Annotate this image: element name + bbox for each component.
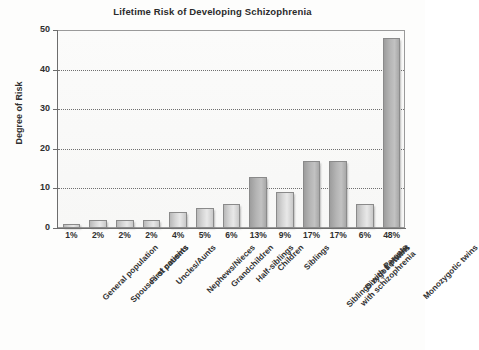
y-tick-mark-40 <box>53 70 57 71</box>
bar <box>196 208 214 228</box>
bar <box>223 204 241 228</box>
x-category-label: General population <box>101 243 160 302</box>
bar <box>249 177 267 228</box>
bar-value-label: 48% <box>376 230 408 240</box>
bar <box>89 220 107 228</box>
bar <box>303 161 321 228</box>
bar <box>169 212 187 228</box>
bar <box>63 224 81 228</box>
y-tick-mark-0 <box>53 228 57 229</box>
bar <box>356 204 374 228</box>
bar <box>116 220 134 228</box>
x-category-label: Monozygotic twins <box>421 243 479 301</box>
y-tick-label-30: 30 <box>2 103 50 113</box>
y-tick-mark-30 <box>53 109 57 110</box>
y-tick-label-0: 0 <box>2 222 50 232</box>
bar <box>383 38 401 228</box>
bar <box>143 220 161 228</box>
bar-series <box>58 30 405 228</box>
y-tick-label-10: 10 <box>2 182 50 192</box>
bar <box>329 161 347 228</box>
y-tick-label-50: 50 <box>2 24 50 34</box>
y-tick-mark-50 <box>53 30 57 31</box>
x-axis-line <box>57 228 406 229</box>
chart-title: Lifetime Risk of Developing Schizophreni… <box>0 6 425 17</box>
y-tick-mark-10 <box>53 188 57 189</box>
x-category-label: Siblings <box>302 243 331 272</box>
bar <box>276 192 294 228</box>
y-tick-label-20: 20 <box>2 143 50 153</box>
y-tick-label-40: 40 <box>2 64 50 74</box>
y-axis-title: Degree of Risk <box>14 63 24 163</box>
y-tick-mark-20 <box>53 149 57 150</box>
